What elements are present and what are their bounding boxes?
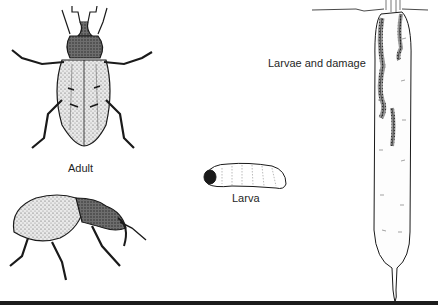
weevil-life-stage-figure: Adult Larva Larvae and damage	[0, 0, 438, 305]
adult-weevil-lateral-illustration	[10, 195, 146, 280]
carrot-root-illustration	[312, 0, 428, 302]
larva-label: Larva	[232, 192, 260, 204]
larva-illustration	[204, 163, 286, 188]
adult-weevil-dorsal-illustration	[12, 6, 152, 148]
larvae-and-damage-label: Larvae and damage	[268, 57, 366, 69]
illustration-canvas	[0, 0, 438, 305]
adult-label: Adult	[68, 162, 93, 174]
bottom-border-rule	[0, 301, 438, 305]
